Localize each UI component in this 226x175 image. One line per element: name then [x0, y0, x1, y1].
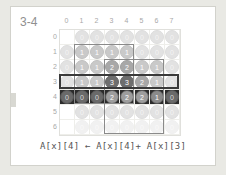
grid-cell: 0 — [135, 120, 150, 135]
grid-cell: 1 — [150, 75, 165, 90]
grid-cell: 2 — [105, 90, 120, 105]
grid-cell: 0 — [120, 120, 135, 135]
row-header-2: 2 — [45, 59, 57, 74]
grid-cell: 3 — [105, 75, 120, 90]
cell-token: 0 — [165, 60, 179, 74]
cell-token: 0 — [165, 120, 179, 134]
grid-cell: 0 — [150, 105, 165, 120]
grid-cell: 1 — [90, 45, 105, 60]
grid-cell — [60, 120, 75, 135]
cell-token: 0 — [150, 30, 164, 44]
cell-token: 2 — [105, 60, 119, 74]
grid-cell: 1 — [90, 60, 105, 75]
matrix-grid: 01234567 0123456 00000000111100001122110… — [45, 17, 177, 137]
cell-token: 0 — [120, 105, 134, 119]
column-header-5: 5 — [134, 17, 149, 24]
grid-cell: 0 — [105, 120, 120, 135]
cell-token: 0 — [105, 105, 119, 119]
grid-cell: 0 — [60, 90, 75, 105]
cell-token: 1 — [90, 60, 104, 74]
grid-cell: 0 — [150, 30, 165, 45]
cell-token: 0 — [150, 45, 164, 59]
cell-token: 0 — [120, 30, 134, 44]
grid-cell: 0 — [60, 75, 75, 90]
grid-cell: 1 — [75, 60, 90, 75]
cell-token: 0 — [75, 30, 89, 44]
column-header-7: 7 — [164, 17, 179, 24]
cell-token: 1 — [150, 90, 164, 104]
grid-cell: 1 — [75, 45, 90, 60]
cell-token: 1 — [75, 75, 89, 89]
cell-token: 0 — [150, 105, 164, 119]
cell-token: 1 — [150, 60, 164, 74]
cell-token: 0 — [150, 120, 164, 134]
row-header-0: 0 — [45, 29, 57, 44]
grid-cell: 0 — [135, 30, 150, 45]
grid-cell: 1 — [150, 60, 165, 75]
grid-cell: 0 — [75, 105, 90, 120]
cell-token: 0 — [135, 30, 149, 44]
grid-cell: 0 — [120, 30, 135, 45]
grid-cell: 0 — [90, 105, 105, 120]
grid-cell: 2 — [135, 90, 150, 105]
grid-cell: 1 — [75, 75, 90, 90]
cell-token: 0 — [90, 105, 104, 119]
grid-cell: 0 — [135, 45, 150, 60]
cell-token: 2 — [135, 75, 149, 89]
row-header-1: 1 — [45, 44, 57, 59]
formula-caption: A[x][4] ← A[x][4]+ A[x][3] — [11, 141, 215, 151]
grid-cell — [60, 30, 75, 45]
cell-token: 2 — [120, 60, 134, 74]
grid-cell: 0 — [60, 60, 75, 75]
cell-token: 0 — [75, 105, 89, 119]
cell-token: 3 — [120, 75, 134, 89]
grid-cell: 0 — [135, 105, 150, 120]
column-header-1: 1 — [74, 17, 89, 24]
column-header-0: 0 — [59, 17, 74, 24]
grid-cell: 2 — [120, 60, 135, 75]
cell-token: 0 — [120, 120, 134, 134]
row-header-5: 5 — [45, 104, 57, 119]
cell-token: 0 — [90, 30, 104, 44]
grid-cell: 1 — [150, 90, 165, 105]
cell-token: 0 — [135, 120, 149, 134]
grid-cell: 3 — [120, 75, 135, 90]
cell-token: 0 — [135, 105, 149, 119]
grid-cell: 0 — [75, 90, 90, 105]
cell-token: 0 — [135, 45, 149, 59]
column-header-2: 2 — [89, 17, 104, 24]
grid-cell: 0 — [90, 90, 105, 105]
cell-token: 0 — [165, 45, 179, 59]
cell-token: 0 — [90, 120, 104, 134]
grid-cell: 0 — [105, 30, 120, 45]
grid-cell: 2 — [105, 60, 120, 75]
grid-cell: 1 — [90, 75, 105, 90]
column-header-6: 6 — [149, 17, 164, 24]
grid-cell: 0 — [150, 45, 165, 60]
cell-token: 2 — [105, 90, 119, 104]
grid-cell: 0 — [165, 60, 180, 75]
cell-token: 0 — [60, 90, 74, 104]
grid-cells: 0000000011110000112211001133210000222100… — [59, 29, 181, 136]
cell-token: 0 — [60, 60, 74, 74]
cell-token: 0 — [75, 90, 89, 104]
cell-token: 0 — [90, 90, 104, 104]
cell-token: 0 — [75, 120, 89, 134]
cell-token: 0 — [60, 75, 74, 89]
cell-token: 1 — [105, 45, 119, 59]
grid-cell: 0 — [165, 30, 180, 45]
grid-cell: 0 — [150, 120, 165, 135]
grid-cell: 0 — [165, 90, 180, 105]
cell-token: 1 — [75, 45, 89, 59]
cell-token: 1 — [90, 75, 104, 89]
grid-cell: 0 — [165, 120, 180, 135]
grid-cell: 1 — [120, 45, 135, 60]
grid-cell: 1 — [105, 45, 120, 60]
slide-edge-marker — [11, 93, 16, 107]
cell-token: 0 — [165, 105, 179, 119]
cell-token: 1 — [75, 60, 89, 74]
cell-token: 0 — [105, 120, 119, 134]
grid-cell: 0 — [105, 105, 120, 120]
cell-token: 0 — [165, 90, 179, 104]
cell-token: 0 — [165, 75, 179, 89]
